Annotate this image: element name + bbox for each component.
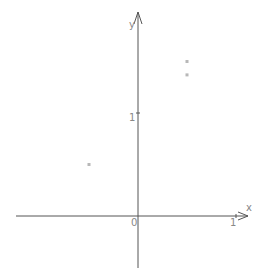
scatter-chart: x y 0 11 bbox=[0, 0, 277, 271]
x-axis-label: x bbox=[246, 202, 252, 213]
data-point bbox=[186, 73, 189, 76]
origin-label: 0 bbox=[131, 217, 137, 228]
y-axis-label: y bbox=[129, 19, 135, 30]
x-tick-label: 1 bbox=[230, 217, 236, 228]
y-tick-label: 1 bbox=[129, 112, 135, 123]
data-point bbox=[88, 163, 91, 166]
ticks: 11 bbox=[129, 112, 236, 228]
data-point bbox=[186, 60, 189, 63]
